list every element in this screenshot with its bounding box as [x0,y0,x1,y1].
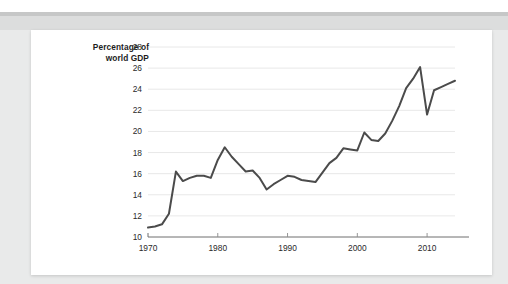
y-tick-label-14: 14 [133,190,143,200]
y-tick-label-20: 20 [133,126,143,136]
y-tick-label-26: 26 [133,63,143,73]
page-root: Percentage of world GDP 1012141618202224… [0,0,508,284]
y-tick-label-10: 10 [133,232,143,242]
y-tick-label-22: 22 [133,105,143,115]
chart-card: Percentage of world GDP 1012141618202224… [31,30,492,275]
y-tick-label-18: 18 [133,148,143,158]
grid-lines-group [148,47,455,216]
y-axis-tick-labels-group: 10121416182022242628 [133,42,143,242]
page-top-gray-band [0,16,508,30]
x-tick-label-2000: 2000 [348,243,367,253]
data-series-line [148,67,455,227]
x-axis-tick-labels-group: 19701980199020002010 [139,243,437,253]
x-tick-label-1990: 1990 [278,243,297,253]
x-axis-group [148,233,469,237]
y-tick-label-12: 12 [133,211,143,221]
y-tick-label-24: 24 [133,84,143,94]
x-tick-label-1970: 1970 [139,243,158,253]
x-tick-label-1980: 1980 [208,243,227,253]
page-top-white-strip [0,0,508,12]
y-tick-label-28: 28 [133,42,143,52]
plot-area: 10121416182022242628 1970198019902000201… [31,30,492,275]
line-chart-svg: 10121416182022242628 1970198019902000201… [31,30,492,275]
y-tick-label-16: 16 [133,169,143,179]
x-tick-label-2010: 2010 [418,243,437,253]
